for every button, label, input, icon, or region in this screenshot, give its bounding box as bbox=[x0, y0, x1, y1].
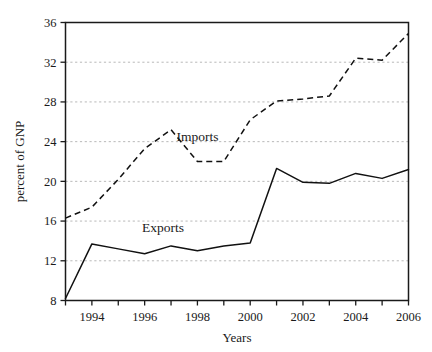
x-tick-label: 1998 bbox=[185, 310, 210, 324]
x-axis-title: Years bbox=[222, 330, 251, 345]
series-group bbox=[66, 33, 409, 298]
gridline-group bbox=[66, 62, 409, 261]
x-tick-label: 1994 bbox=[79, 310, 105, 324]
y-tick-label: 28 bbox=[44, 95, 57, 109]
y-tick-label: 32 bbox=[44, 56, 57, 70]
series-line-exports bbox=[66, 168, 409, 298]
series-label-exports: Exports bbox=[142, 220, 184, 235]
x-tick-label: 2000 bbox=[238, 310, 263, 324]
y-tick-label: 12 bbox=[44, 254, 57, 268]
y-axis-title: percent of GNP bbox=[12, 121, 27, 203]
y-tick-label: 24 bbox=[44, 135, 57, 149]
y-tick-label: 8 bbox=[50, 294, 56, 308]
y-tick-label: 20 bbox=[44, 175, 57, 189]
series-label-imports: Imports bbox=[176, 129, 218, 144]
x-tick-label: 2002 bbox=[290, 310, 315, 324]
x-tick-label: 1996 bbox=[132, 310, 157, 324]
series-line-imports bbox=[66, 33, 409, 218]
y-tick-label: 16 bbox=[44, 214, 57, 228]
line-chart: 1994199619982000200220042006 81216202428… bbox=[0, 0, 432, 352]
y-tick-label: 36 bbox=[44, 16, 57, 30]
x-tick-label: 2004 bbox=[343, 310, 369, 324]
x-tick-label-group: 1994199619982000200220042006 bbox=[79, 310, 421, 324]
x-tick-label: 2006 bbox=[396, 310, 421, 324]
chart-figure: 1994199619982000200220042006 81216202428… bbox=[0, 0, 432, 352]
series-annotation-group: ImportsExports bbox=[142, 129, 218, 235]
y-tick-label-group: 812162024283236 bbox=[44, 16, 57, 308]
axis-frame bbox=[66, 23, 409, 301]
